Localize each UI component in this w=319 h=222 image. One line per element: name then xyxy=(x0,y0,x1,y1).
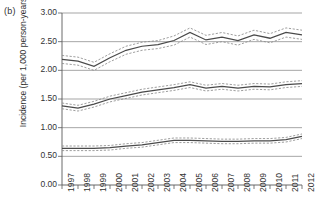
series-group-1 xyxy=(62,28,302,70)
data-series-layer xyxy=(62,28,302,151)
series-group-2 xyxy=(62,81,302,111)
series-group-3 xyxy=(62,134,302,151)
axis-tickmarks xyxy=(58,13,302,189)
series-ci-upper-1 xyxy=(62,28,302,62)
series-line-2 xyxy=(62,84,302,109)
gridlines xyxy=(62,13,302,156)
series-line-1 xyxy=(62,32,302,66)
series-ci-lower-1 xyxy=(62,37,302,70)
figure-panel-b: (b) Incidence (per 1,000 person-years) 0… xyxy=(0,0,319,222)
series-ci-upper-2 xyxy=(62,81,302,106)
chart-plot-area xyxy=(0,0,319,222)
series-line-3 xyxy=(62,136,302,148)
